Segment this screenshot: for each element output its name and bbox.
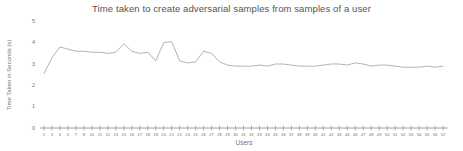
data-line <box>44 42 443 74</box>
x-tick-label: 26 <box>201 132 206 137</box>
x-tick-label: 38 <box>297 132 302 137</box>
x-tick-label: 49 <box>377 132 382 137</box>
x-tick-label: 19 <box>153 132 158 137</box>
x-tick-label: 52 <box>401 132 406 137</box>
x-tick-label: 10 <box>90 132 95 137</box>
x-tick-label: 39 <box>305 132 310 137</box>
y-tick-label: 5 <box>32 18 35 24</box>
x-tick-label: 30 <box>233 132 238 137</box>
x-tick-label: 37 <box>289 132 294 137</box>
x-tick-label: 53 <box>409 132 414 137</box>
x-tick-label: 5 <box>67 132 70 137</box>
x-tick-label: 40 <box>313 132 318 137</box>
x-tick-label: 41 <box>321 132 326 137</box>
x-tick-label: 42 <box>329 132 334 137</box>
x-tick-label: 21 <box>169 132 174 137</box>
x-tick-label: 7 <box>75 132 78 137</box>
x-tick-label: 12 <box>106 132 111 137</box>
x-tick-label: 15 <box>121 132 126 137</box>
x-tick-label: 48 <box>369 132 374 137</box>
x-tick-label: 51 <box>393 132 398 137</box>
x-tick-label: 34 <box>265 132 270 137</box>
x-tick-label: 28 <box>217 132 222 137</box>
x-tick-label: 35 <box>273 132 278 137</box>
x-tick-label: 36 <box>281 132 286 137</box>
x-tick-label: 44 <box>345 132 350 137</box>
x-tick-label: 46 <box>353 132 358 137</box>
x-tick-label: 4 <box>59 132 62 137</box>
x-tick-label: 8 <box>83 132 86 137</box>
x-tick-label: 3 <box>51 132 54 137</box>
y-tick-label: 2 <box>32 82 35 88</box>
x-axis-label: Users <box>40 139 448 146</box>
x-tick-label: 56 <box>433 132 438 137</box>
x-tick-label: 29 <box>225 132 230 137</box>
x-tick-label: 47 <box>361 132 366 137</box>
x-tick-label: 33 <box>257 132 262 137</box>
chart-plot-area: 2345781011121315161718192021222425262728… <box>0 0 463 151</box>
x-tick-label: 50 <box>385 132 390 137</box>
y-tick-label: 4 <box>32 39 35 45</box>
x-tick-label: 22 <box>177 132 182 137</box>
chart-container: Time taken to create adversarial samples… <box>0 0 463 151</box>
x-tick-label: 54 <box>417 132 422 137</box>
y-tick-label: 3 <box>32 61 35 67</box>
x-tick-label: 18 <box>145 132 150 137</box>
x-tick-label: 27 <box>209 132 214 137</box>
x-tick-label: 24 <box>185 132 190 137</box>
x-tick-label: 31 <box>241 132 246 137</box>
x-tick-label: 57 <box>441 132 446 137</box>
x-tick-label: 55 <box>425 132 430 137</box>
x-tick-label: 17 <box>137 132 142 137</box>
x-tick-label: 16 <box>129 132 134 137</box>
x-tick-label: 25 <box>193 132 198 137</box>
x-tick-label: 13 <box>113 132 118 137</box>
x-tick-label: 11 <box>98 132 103 137</box>
x-tick-label: 20 <box>161 132 166 137</box>
x-tick-label: 32 <box>249 132 254 137</box>
x-tick-label: 43 <box>337 132 342 137</box>
y-tick-label: 1 <box>32 103 35 109</box>
y-tick-label: 0 <box>32 125 35 131</box>
x-tick-label: 2 <box>43 132 46 137</box>
